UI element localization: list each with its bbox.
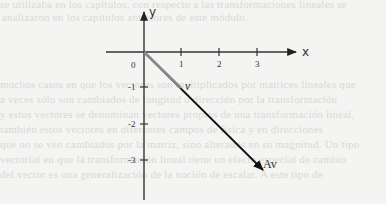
y-tick-label-3: -3 <box>128 155 136 165</box>
vector-av-label: Av <box>263 157 277 171</box>
x-axis-label: x <box>302 45 309 59</box>
y-axis-label: y <box>149 5 156 19</box>
x-tick-label-1: 1 <box>179 59 184 69</box>
y-tick-label-2: -2 <box>128 119 136 129</box>
y-tick-label-1: -1 <box>128 82 136 92</box>
coordinate-diagram: 0 1 2 3 -1 -2 -3 x y v Av <box>0 0 386 204</box>
vector-v-label: v <box>185 79 191 93</box>
x-tick-label-3: 3 <box>255 59 260 69</box>
x-tick-label-2: 2 <box>217 59 222 69</box>
origin-label: 0 <box>131 60 136 70</box>
vector-v <box>144 52 181 88</box>
